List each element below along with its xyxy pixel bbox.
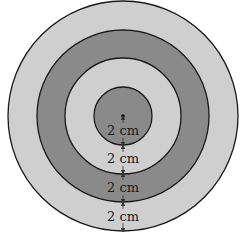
label-third-width: 2 cm xyxy=(107,180,139,195)
target-diagram: 2 cm 2 cm 2 cm 2 cm xyxy=(0,0,246,249)
label-outer-width: 2 cm xyxy=(107,209,139,224)
center-dot xyxy=(121,114,125,118)
label-second-width: 2 cm xyxy=(107,151,139,166)
label-inner-radius: 2 cm xyxy=(107,123,139,138)
